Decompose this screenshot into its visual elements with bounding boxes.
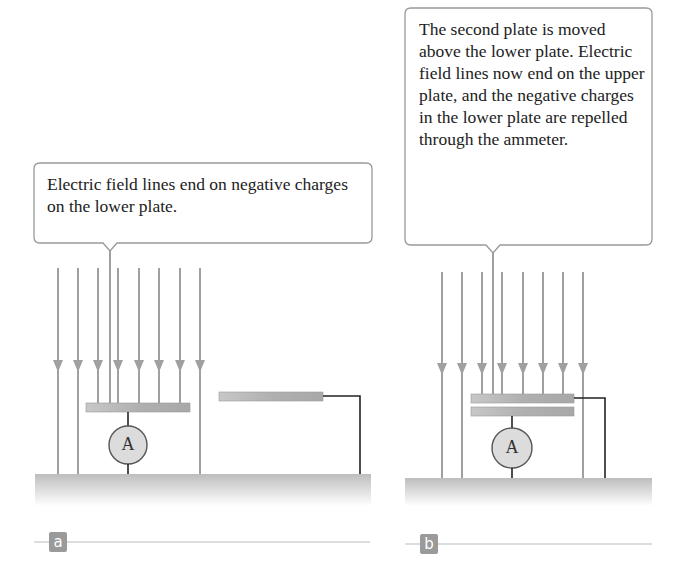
lower-plate-a xyxy=(86,403,190,412)
ammeter-symbol-b: A xyxy=(502,437,522,458)
ammeter-symbol-a: A xyxy=(118,434,138,455)
panel-label-b: b xyxy=(420,534,438,554)
callout-text-b: The second plate is moved above the lowe… xyxy=(419,18,645,150)
panel-label-a: a xyxy=(49,532,67,552)
second-plate-a xyxy=(219,392,323,401)
wire-b xyxy=(574,398,605,478)
wire-a xyxy=(323,396,360,474)
ground-a xyxy=(35,474,371,506)
lower-plate-b xyxy=(471,407,574,416)
field-arrowheads-a xyxy=(53,360,205,372)
panel-a xyxy=(34,163,372,542)
callout-text-a: Electric field lines end on negative cha… xyxy=(47,173,369,217)
ground-b xyxy=(405,478,652,506)
upper-plate-b xyxy=(471,394,574,403)
field-arrowheads-b xyxy=(437,363,588,375)
